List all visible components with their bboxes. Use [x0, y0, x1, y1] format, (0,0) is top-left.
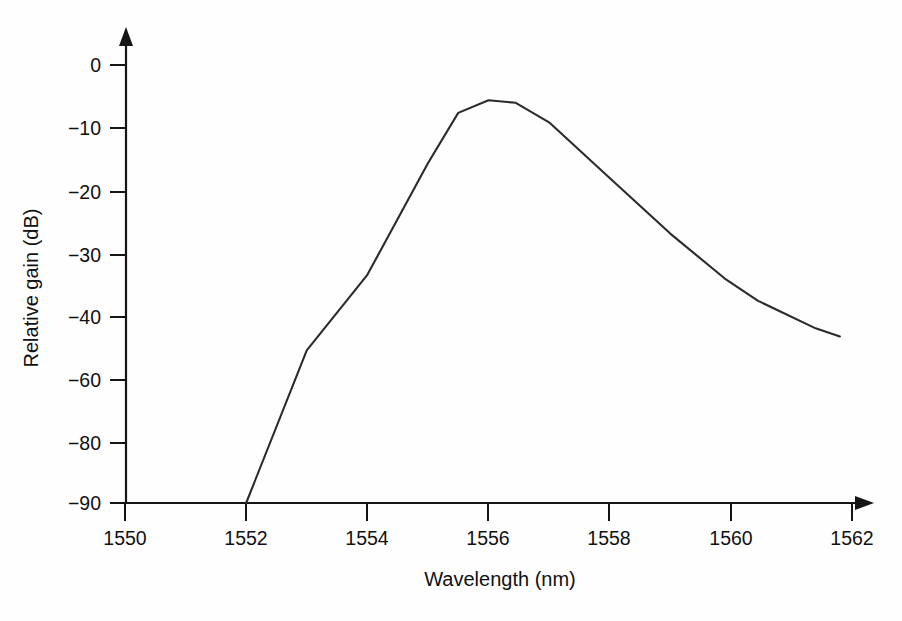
x-tick-label-1552: 1552 [224, 527, 267, 549]
chart-canvas: 0 −10 −20 −30 −40 −60 −80 −90 1550 1552 … [0, 0, 902, 621]
x-axis-title: Wavelength (nm) [424, 568, 576, 590]
y-axis-title: Relative gain (dB) [20, 209, 42, 368]
data-series-group [246, 100, 840, 503]
y-tick-label-m10: −10 [68, 117, 101, 139]
data-curve-relative-gain [246, 100, 840, 503]
y-axis-arrowhead [119, 27, 133, 46]
x-tick-label-1556: 1556 [466, 527, 509, 549]
x-tick-label-1562: 1562 [830, 527, 873, 549]
y-tick-label-m20: −20 [68, 181, 101, 203]
y-tick-label-m30: −30 [68, 244, 101, 266]
x-tick-label-1550: 1550 [103, 527, 147, 549]
figure-root: 0 −10 −20 −30 −40 −60 −80 −90 1550 1552 … [0, 0, 902, 621]
x-tick-label-1554: 1554 [345, 527, 389, 549]
x-axis-arrowhead [855, 496, 874, 510]
y-tick-label-m80: −80 [68, 432, 101, 454]
y-tick-label-m90: −90 [68, 492, 101, 514]
x-axis: 1550 1552 1554 1556 1558 1560 1562 [103, 496, 874, 549]
y-axis: 0 −10 −20 −30 −40 −60 −80 −90 [68, 27, 133, 514]
x-tick-label-1560: 1560 [709, 527, 753, 549]
y-tick-label-m60: −60 [68, 369, 101, 391]
y-tick-label-0: 0 [90, 54, 101, 76]
x-tick-label-1558: 1558 [587, 527, 630, 549]
y-tick-label-m40: −40 [68, 306, 101, 328]
